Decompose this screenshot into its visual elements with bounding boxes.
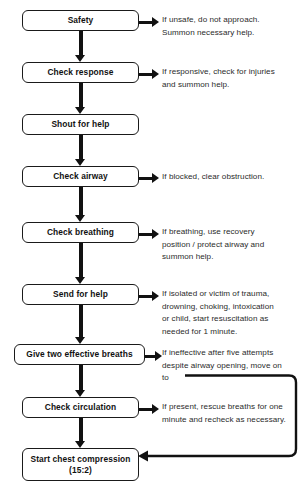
figure-caption <box>22 486 302 493</box>
feedback-loop-arrow <box>0 0 308 493</box>
flowchart-diagram: Safety If unsafe, do not approach. Summo… <box>0 0 308 493</box>
